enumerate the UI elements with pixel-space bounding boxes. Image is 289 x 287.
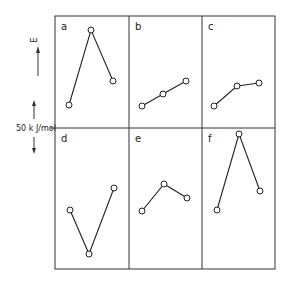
- panel-label-e: e: [135, 133, 141, 144]
- scale-down-arrow-icon: [32, 148, 36, 154]
- data-point-marker: [234, 83, 240, 89]
- panel-label-f: f: [208, 133, 212, 144]
- energy-up-arrow-icon: [36, 46, 40, 53]
- data-point-marker: [211, 103, 217, 109]
- energy-symbol: E: [30, 37, 39, 42]
- profile-b: [139, 78, 189, 109]
- profile-line: [69, 30, 113, 105]
- data-point-marker: [214, 207, 220, 213]
- profile-e: [139, 181, 190, 214]
- data-point-marker: [139, 103, 145, 109]
- data-point-marker: [161, 181, 167, 187]
- data-point-marker: [257, 188, 263, 194]
- panel-labels: a b c d e f: [61, 21, 214, 144]
- data-point-marker: [110, 78, 116, 84]
- panel-label-a: a: [61, 21, 67, 32]
- data-point-marker: [67, 207, 73, 213]
- data-point-marker: [236, 131, 242, 137]
- profile-line: [217, 134, 260, 210]
- scale-up-arrow-icon: [32, 100, 36, 106]
- panel-label-c: c: [208, 21, 214, 32]
- profile-a: [66, 27, 116, 108]
- data-point-marker: [160, 91, 166, 97]
- series-layer: [66, 27, 263, 257]
- data-point-marker: [139, 208, 145, 214]
- scale-label: 50 k J/mol: [16, 124, 56, 133]
- data-point-marker: [256, 80, 262, 86]
- data-point-marker: [183, 78, 189, 84]
- data-point-marker: [86, 251, 92, 257]
- profile-f: [214, 131, 263, 213]
- data-point-marker: [66, 102, 72, 108]
- panel-label-d: d: [61, 133, 67, 144]
- data-point-marker: [111, 185, 117, 191]
- profile-d: [67, 185, 117, 257]
- panel-label-b: b: [135, 21, 141, 32]
- energy-axis: E 50 k J/mol: [16, 37, 56, 154]
- data-point-marker: [184, 195, 190, 201]
- profile-line: [142, 184, 187, 211]
- energy-profile-diagram: E 50 k J/mol a b c d e f: [0, 0, 289, 287]
- profile-c: [211, 80, 262, 109]
- data-point-marker: [88, 27, 94, 33]
- profile-line: [70, 188, 114, 254]
